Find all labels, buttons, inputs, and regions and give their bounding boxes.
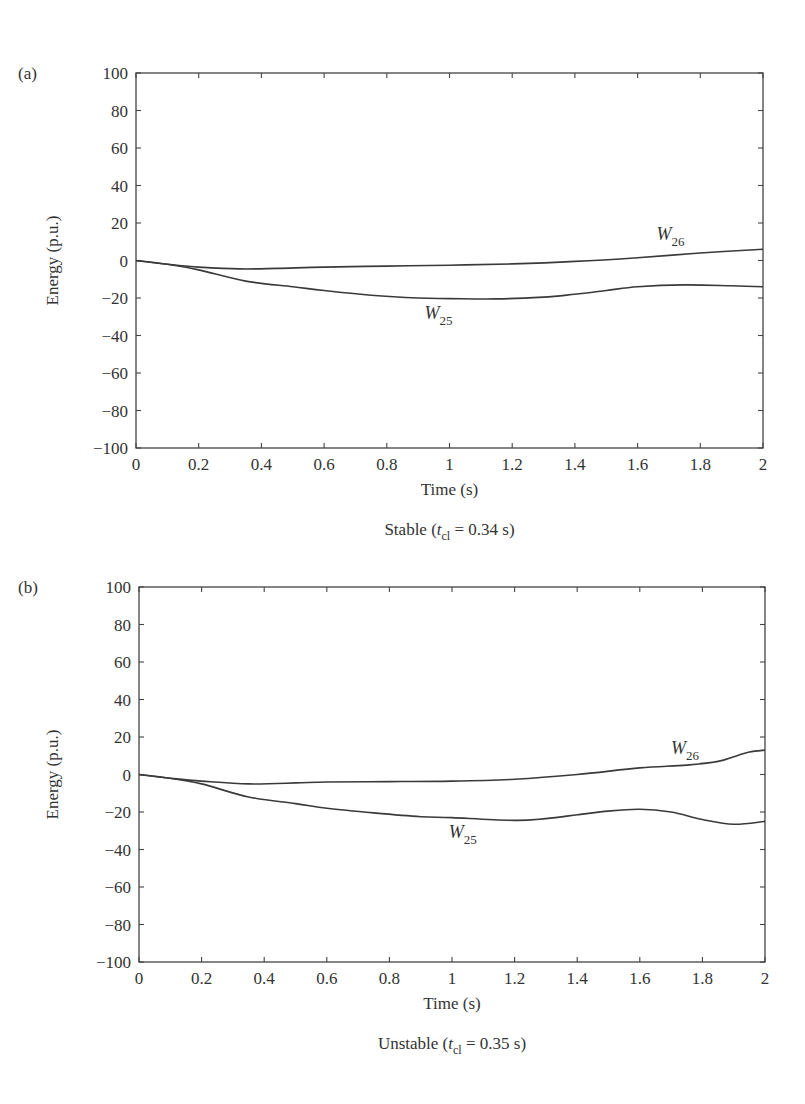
- x-tick-label: 0.2: [188, 455, 209, 474]
- plot-frame: [136, 73, 763, 448]
- y-tick-label: −40: [101, 327, 128, 346]
- y-tick-label: −20: [104, 803, 131, 822]
- y-tick-label: −80: [101, 402, 128, 421]
- x-tick-label: 0.8: [379, 969, 400, 988]
- y-tick-label: 80: [114, 616, 131, 635]
- series-label-w25: W25: [424, 303, 452, 328]
- y-tick-label: 60: [111, 139, 128, 158]
- series-line-w25: [139, 775, 765, 825]
- x-axis-label: Time (s): [421, 480, 478, 499]
- x-tick-label: 1.8: [692, 969, 713, 988]
- y-tick-label: −100: [93, 439, 128, 458]
- y-tick-label: −60: [101, 364, 128, 383]
- x-tick-label: 1.4: [564, 455, 586, 474]
- y-tick-label: 20: [114, 728, 131, 747]
- x-tick-label: 1.8: [690, 455, 711, 474]
- y-tick-label: 40: [114, 691, 131, 710]
- x-axis-label: Time (s): [423, 994, 480, 1013]
- panel-label: (a): [18, 64, 37, 83]
- x-tick-label: 0.8: [376, 455, 397, 474]
- x-tick-label: 1.2: [504, 969, 525, 988]
- x-tick-label: 1.6: [629, 969, 650, 988]
- chart-panel-b: (b)00.20.40.60.811.21.41.61.821008060402…: [18, 578, 769, 1057]
- y-tick-label: −20: [101, 289, 128, 308]
- y-tick-label: 100: [106, 578, 132, 597]
- x-tick-label: 1.4: [567, 969, 589, 988]
- y-axis-label: Energy (p.u.): [43, 730, 62, 820]
- x-tick-label: 0: [135, 969, 144, 988]
- y-tick-label: 60: [114, 653, 131, 672]
- y-tick-label: 100: [103, 64, 129, 83]
- x-tick-label: 0.6: [313, 455, 334, 474]
- x-tick-label: 2: [761, 969, 770, 988]
- series-label-w25: W25: [449, 822, 477, 847]
- x-tick-label: 0.4: [254, 969, 276, 988]
- chart-caption: Stable (tcl = 0.34 s): [384, 520, 514, 543]
- y-tick-label: −100: [96, 953, 131, 972]
- chart-panel-a: (a)00.20.40.60.811.21.41.61.821008060402…: [18, 64, 767, 543]
- series-label-w26: W26: [671, 738, 700, 763]
- series-line-w25: [136, 261, 763, 299]
- x-tick-label: 1.2: [502, 455, 523, 474]
- y-tick-label: 40: [111, 177, 128, 196]
- y-tick-label: 0: [120, 252, 129, 271]
- x-tick-label: 0.2: [191, 969, 212, 988]
- x-tick-label: 1.6: [627, 455, 648, 474]
- y-axis-label: Energy (p.u.): [43, 216, 62, 306]
- series-line-w26: [136, 249, 763, 269]
- y-tick-label: −60: [104, 878, 131, 897]
- y-tick-label: 20: [111, 214, 128, 233]
- x-tick-label: 0.6: [316, 969, 337, 988]
- y-tick-label: 80: [111, 102, 128, 121]
- x-tick-label: 1: [448, 969, 457, 988]
- x-tick-label: 0: [132, 455, 141, 474]
- chart-caption: Unstable (tcl = 0.35 s): [378, 1034, 526, 1057]
- y-tick-label: 0: [123, 766, 132, 785]
- y-tick-label: −40: [104, 841, 131, 860]
- y-tick-label: −80: [104, 916, 131, 935]
- plot-frame: [139, 587, 765, 962]
- x-tick-label: 1: [445, 455, 454, 474]
- x-tick-label: 2: [759, 455, 768, 474]
- figure: (a)00.20.40.60.811.21.41.61.821008060402…: [0, 0, 805, 1104]
- panel-label: (b): [18, 578, 38, 597]
- x-tick-label: 0.4: [251, 455, 273, 474]
- series-label-w26: W26: [656, 224, 685, 249]
